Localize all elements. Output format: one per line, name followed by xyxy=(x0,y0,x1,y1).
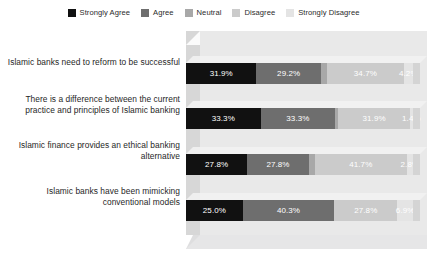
legend-item[interactable]: Agree xyxy=(141,9,174,17)
bar-segment-label: 34.7% xyxy=(354,70,377,78)
bar-row: 25.0%40.3%27.8%6.9% xyxy=(186,193,427,223)
bar-row: 31.9%29.2%34.7%4.2% xyxy=(186,56,427,86)
bar-segment[interactable]: 27.8% xyxy=(247,154,308,175)
category-axis-labels: Islamic banks need to reform to be succe… xyxy=(0,31,180,235)
legend-item-label: Agree xyxy=(153,9,174,17)
bar-end-cap xyxy=(413,200,420,221)
bar-segment[interactable]: 31.9% xyxy=(338,108,409,129)
bars-layer: 31.9%29.2%34.7%4.2%33.3%33.3%31.9%1.4%27… xyxy=(186,31,427,249)
legend-swatch-icon xyxy=(286,9,294,17)
legend-item-label: Disagree xyxy=(244,9,275,17)
bar-segment[interactable]: 4.2% xyxy=(404,63,413,84)
bar-segment[interactable]: 33.3% xyxy=(186,108,261,129)
bar-segment-label: 41.7% xyxy=(349,161,372,169)
bar-body: 31.9%29.2%34.7%4.2% xyxy=(186,63,413,84)
legend-item-label: Strongly Disagree xyxy=(298,9,359,17)
bar-top-face xyxy=(186,56,427,63)
bar-segment-label: 27.8% xyxy=(266,161,289,169)
category-label: Islamic banks have been mimicking conven… xyxy=(0,186,180,209)
plot-area: 31.9%29.2%34.7%4.2%33.3%33.3%31.9%1.4%27… xyxy=(186,31,427,249)
legend-item[interactable]: Disagree xyxy=(232,9,275,17)
legend-item-label: Neutral xyxy=(197,9,222,17)
bar-segment-label: 33.3% xyxy=(212,115,235,123)
bar-segment[interactable]: 34.7% xyxy=(327,63,404,84)
bar-segment[interactable]: 33.3% xyxy=(261,108,336,129)
legend-swatch-icon xyxy=(141,9,149,17)
bar-segment-label: 31.9% xyxy=(210,70,233,78)
bar-segment-label: 27.8% xyxy=(354,207,377,215)
bar-segment[interactable]: 41.7% xyxy=(315,154,407,175)
legend-item-label: Strongly Agree xyxy=(80,9,131,17)
legend-swatch-icon xyxy=(185,9,193,17)
chart-legend: Strongly AgreeAgreeNeutralDisagreeStrong… xyxy=(0,9,427,17)
bar-row: 33.3%33.3%31.9%1.4% xyxy=(186,101,427,131)
bar-segment-label: 33.3% xyxy=(286,115,309,123)
bar-segment[interactable]: 31.9% xyxy=(186,63,256,84)
category-label: There is a difference between the curren… xyxy=(0,94,180,117)
legend-swatch-icon xyxy=(232,9,240,17)
bar-segment-label: 40.3% xyxy=(277,207,300,215)
legend-item[interactable]: Strongly Disagree xyxy=(286,9,359,17)
bar-top-face xyxy=(186,147,427,154)
bar-end-cap xyxy=(413,108,420,129)
bar-segment[interactable]: 2.8% xyxy=(407,154,413,175)
bar-segment[interactable]: 40.3% xyxy=(243,200,334,221)
bar-segment-label: 29.2% xyxy=(277,70,300,78)
legend-item[interactable]: Neutral xyxy=(185,9,222,17)
bar-segment-label: 31.9% xyxy=(362,115,385,123)
bar-segment[interactable]: 29.2% xyxy=(256,63,320,84)
bar-end-cap xyxy=(413,63,420,84)
bar-segment-label: 6.9% xyxy=(396,207,415,215)
bar-row: 27.8%27.8%41.7%2.8% xyxy=(186,147,427,177)
legend-swatch-icon xyxy=(68,9,76,17)
bar-body: 33.3%33.3%31.9%1.4% xyxy=(186,108,413,129)
bar-segment-label: 25.0% xyxy=(203,207,226,215)
category-label: Islamic banks need to reform to be succe… xyxy=(0,57,180,69)
legend-item[interactable]: Strongly Agree xyxy=(68,9,131,17)
bar-segment[interactable]: 25.0% xyxy=(186,200,243,221)
bar-body: 25.0%40.3%27.8%6.9% xyxy=(186,200,413,221)
bar-segment[interactable]: 1.4% xyxy=(410,108,413,129)
bar-segment[interactable]: 6.9% xyxy=(397,200,413,221)
bar-segment[interactable]: 27.8% xyxy=(334,200,397,221)
stacked-bar-chart: Strongly AgreeAgreeNeutralDisagreeStrong… xyxy=(0,0,427,265)
bar-top-face xyxy=(186,193,427,200)
bar-segment-label: 27.8% xyxy=(205,161,228,169)
bar-body: 27.8%27.8%41.7%2.8% xyxy=(186,154,413,175)
bar-top-face xyxy=(186,101,427,108)
bar-end-cap xyxy=(413,154,420,175)
category-label: Islamic finance provides an ethical bank… xyxy=(0,140,180,163)
bar-segment[interactable]: 27.8% xyxy=(186,154,247,175)
